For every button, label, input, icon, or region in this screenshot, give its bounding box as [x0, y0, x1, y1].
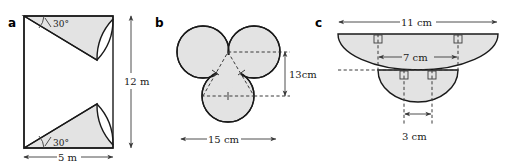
panel-a-label: a	[8, 16, 16, 30]
panel-b-height-label: 13cm	[289, 69, 317, 80]
panel-c-inner-label: 3 cm	[402, 131, 427, 142]
panel-b-label: b	[155, 16, 164, 30]
panel-c: c 11 cm 7 cm 3 cm	[315, 14, 498, 142]
panel-a-bottom-angle-label: 30°	[53, 138, 69, 148]
panel-c-outer-label: 11 cm	[401, 17, 433, 28]
panel-c-inner-semicircle	[378, 70, 458, 102]
panel-a-top-angle-label: 30°	[53, 19, 69, 29]
panel-b-width-label: 15 cm	[208, 134, 240, 145]
panel-a-width-label: 5 m	[58, 152, 78, 163]
panel-a-shaded-region	[24, 16, 113, 148]
panel-a-height-label: 12 m	[124, 76, 150, 87]
panel-b: b 13cm 15 cm	[155, 16, 317, 147]
geometry-figure-set: a 30° 30° 12 m 5 m b	[0, 0, 506, 164]
panel-a: a 30° 30° 12 m 5 m	[8, 16, 150, 164]
panel-c-label: c	[315, 16, 322, 30]
panel-c-middle-label: 7 cm	[403, 52, 428, 63]
